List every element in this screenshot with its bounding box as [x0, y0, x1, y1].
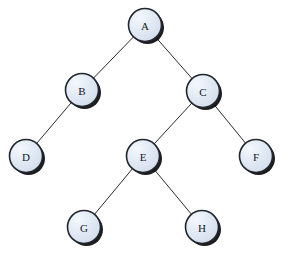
node-circle-d[interactable]: [10, 140, 43, 173]
node-circle-a[interactable]: [129, 9, 162, 42]
node-circle-e[interactable]: [127, 140, 160, 173]
tree-edge-c-f: [212, 102, 247, 145]
node-circle-c[interactable]: [187, 75, 220, 108]
tree-node-d[interactable]: D: [10, 140, 46, 176]
node-circle-h[interactable]: [186, 211, 219, 244]
tree-node-g[interactable]: G: [68, 211, 104, 247]
tree-diagram-canvas: ABCDEFGH: [0, 0, 281, 254]
tree-node-c[interactable]: C: [187, 75, 223, 111]
edges-layer: [35, 35, 246, 215]
tree-edge-c-e: [153, 102, 193, 146]
nodes-layer: ABCDEFGH: [10, 9, 276, 247]
tree-node-f[interactable]: F: [240, 140, 276, 176]
tree-edge-a-b: [92, 35, 135, 79]
tree-edge-a-c: [155, 36, 194, 80]
node-circle-f[interactable]: [240, 140, 273, 173]
tree-diagram: ABCDEFGH: [0, 0, 281, 254]
tree-edge-b-d: [35, 101, 72, 145]
tree-node-h[interactable]: H: [186, 211, 222, 247]
tree-edge-e-g: [93, 167, 133, 216]
node-circle-b[interactable]: [66, 74, 99, 107]
tree-node-a[interactable]: A: [129, 9, 165, 45]
node-circle-g[interactable]: [68, 211, 101, 244]
tree-edge-e-h: [152, 167, 192, 216]
